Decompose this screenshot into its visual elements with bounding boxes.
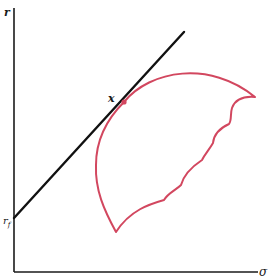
axes	[14, 8, 258, 272]
y-axis-label: r	[4, 6, 11, 19]
tangent-point-label: x	[107, 92, 115, 105]
diagram: r σ rf x	[0, 0, 269, 280]
risk-free-rate-label: rf	[3, 215, 12, 229]
risk-free-rate-subscript: f	[7, 221, 12, 229]
feasible-set-boundary	[96, 73, 255, 232]
x-axis-label: σ	[259, 265, 268, 279]
tangent-point-marker	[121, 99, 126, 104]
